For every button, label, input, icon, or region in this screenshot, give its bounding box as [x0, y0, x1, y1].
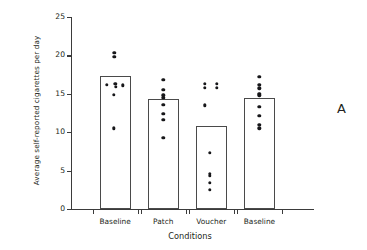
- data-point: [203, 86, 206, 89]
- y-tick-mark: [67, 209, 72, 210]
- panel-letter-label: A: [337, 101, 346, 116]
- data-point: [258, 87, 261, 90]
- x-tick-mark: [138, 209, 139, 214]
- y-tick-label: 0: [60, 204, 65, 213]
- plot-area: 0510152025 BaselinePatchVoucherBaseline: [71, 17, 314, 209]
- y-tick-mark: [67, 132, 72, 133]
- x-tick-mark: [234, 209, 235, 214]
- x-tick-label-2: Voucher: [196, 217, 226, 226]
- data-point: [258, 75, 261, 78]
- data-point: [162, 88, 165, 91]
- data-point: [113, 55, 116, 58]
- x-tick-label-3: Baseline: [244, 217, 275, 226]
- y-tick-label: 5: [60, 166, 65, 175]
- data-point: [215, 86, 218, 89]
- x-tick-mark: [282, 209, 283, 214]
- y-tick-mark: [67, 94, 72, 95]
- x-tick-mark: [237, 209, 238, 214]
- y-axis-line: [71, 17, 72, 209]
- y-tick-label: 15: [55, 89, 65, 98]
- x-tick-mark: [186, 209, 187, 214]
- y-tick-label: 20: [55, 50, 65, 59]
- bar-voucher-2: [196, 126, 227, 209]
- y-tick-label: 10: [55, 127, 65, 136]
- data-point: [162, 78, 165, 81]
- bar-patch-1: [148, 99, 179, 209]
- y-axis-title: Average self-reported cigarettes per day: [32, 11, 41, 211]
- x-tick-label-1: Patch: [153, 217, 173, 226]
- x-tick-mark: [189, 209, 190, 214]
- x-axis-title: Conditions: [60, 231, 320, 241]
- figure-panel-a: Average self-reported cigarettes per day…: [0, 0, 367, 250]
- x-tick-mark: [141, 209, 142, 214]
- x-tick-label-0: Baseline: [99, 217, 130, 226]
- y-tick-label: 25: [55, 12, 65, 21]
- data-point: [203, 104, 206, 107]
- y-tick-mark: [67, 17, 72, 18]
- bar-baseline-0: [100, 76, 131, 209]
- y-tick-mark: [67, 55, 72, 56]
- data-point: [258, 94, 261, 97]
- y-tick-mark: [67, 171, 72, 172]
- x-tick-mark: [93, 209, 94, 214]
- x-axis-line: [71, 209, 314, 210]
